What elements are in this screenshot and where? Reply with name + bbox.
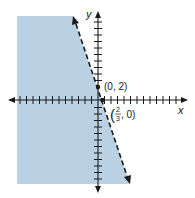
x-axis-label: x: [177, 104, 184, 116]
inequality-graph: y x (0, 2) ( 2 3 , 0): [0, 0, 195, 198]
point-x-intercept: [100, 98, 104, 102]
point-y-intercept: [96, 85, 100, 89]
arrowhead-up-icon: [72, 16, 79, 25]
y-intercept-label: (0, 2): [104, 81, 127, 92]
svg-text:(: (: [110, 106, 115, 123]
svg-text:, 0): , 0): [121, 109, 135, 120]
svg-text:2: 2: [116, 106, 120, 113]
y-axis-label: y: [85, 8, 93, 20]
x-intercept-label: ( 2 3 , 0): [110, 106, 135, 123]
svg-text:3: 3: [116, 115, 120, 122]
